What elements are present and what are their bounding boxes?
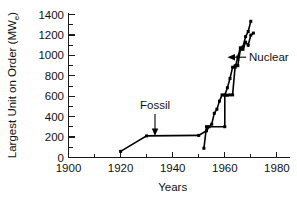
y-axis-title-suffix: ) [6,12,18,16]
x-tick-label: 1940 [160,162,186,174]
chart-canvas: 0 200 400 600 800 1000 1200 1400 1900 19… [0,0,297,207]
series-fossil-markers [119,20,252,153]
y-axis-minor-ticks [69,25,73,147]
y-tick-label: 1200 [38,29,64,41]
annotation-fossil-label: Fossil [140,99,170,111]
y-tick-label: 400 [45,111,64,123]
x-tick-label: 1960 [212,162,238,174]
series-nuclear-line [204,33,254,148]
x-tick-label: 1920 [108,162,134,174]
y-axis-title: Largest Unit on Order (MWe) [6,12,21,159]
y-axis-tick-labels: 0 200 400 600 800 1000 1200 1400 [38,9,64,164]
annotation-fossil: Fossil [140,99,170,136]
series-nuclear [202,32,255,150]
x-axis-title: Years [158,181,187,193]
arrow-left-icon [228,54,236,60]
y-tick-label: 200 [45,131,64,143]
chart-figure: 0 200 400 600 800 1000 1200 1400 1900 19… [0,0,297,207]
x-tick-label: 1980 [264,162,290,174]
y-axis-title-main: Largest Unit on Order (MW [6,20,18,158]
arrow-down-icon [152,129,158,137]
series-fossil [119,20,252,153]
x-axis-major-ticks [69,152,277,158]
y-tick-label: 600 [45,90,64,102]
y-tick-label: 800 [45,70,64,82]
series-nuclear-markers [202,32,255,150]
y-tick-label: 1400 [38,9,64,21]
x-axis-tick-labels: 1900 1920 1940 1960 1980 [56,162,290,174]
y-tick-label: 1000 [38,49,64,61]
annotation-nuclear-label: Nuclear [249,51,289,63]
svg-text:Largest Unit on Order (MWe): Largest Unit on Order (MWe) [6,12,21,159]
series-fossil-line [121,21,251,151]
x-tick-label: 1900 [56,162,82,174]
